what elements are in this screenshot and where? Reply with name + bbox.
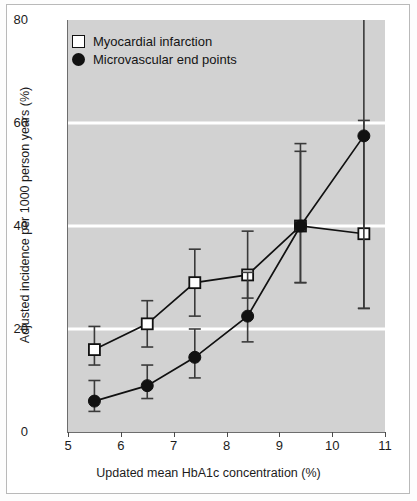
data-point-marker-filled-circle: [294, 220, 306, 232]
x-tick-8: [227, 432, 228, 437]
data-point-marker-open-square: [142, 318, 153, 329]
series-line: [94, 136, 363, 401]
series-microvascular-end-points: [88, 20, 369, 411]
x-tick-label-10: 10: [312, 439, 352, 452]
x-tick-label-7: 7: [154, 439, 194, 452]
y-axis-title: Adjusted incidence per 1000 person years…: [18, 50, 32, 380]
data-point-marker-filled-circle: [141, 380, 153, 392]
data-point-marker-open-square: [89, 344, 100, 355]
legend-item-myocardial-infarction: Myocardial infarction: [72, 33, 237, 50]
plot-svg: [68, 20, 385, 432]
x-tick-label-8: 8: [207, 439, 247, 452]
legend-label-microvascular-end-points: Microvascular end points: [93, 53, 237, 66]
filled-circle-marker-icon: [72, 53, 85, 66]
legend-item-microvascular-end-points: Microvascular end points: [72, 51, 237, 68]
x-tick-11: [385, 432, 386, 437]
chart-legend: Myocardial infarction Microvascular end …: [72, 33, 237, 69]
x-tick-label-6: 6: [101, 439, 141, 452]
x-tick-10: [332, 432, 333, 437]
open-square-marker-icon: [72, 35, 85, 48]
legend-label-myocardial-infarction: Myocardial infarction: [93, 35, 212, 48]
x-tick-label-5: 5: [48, 439, 88, 452]
figure-chart-hba1c-incidence: 020406080 567891011 Adjusted incidence p…: [0, 0, 417, 501]
x-tick-label-9: 9: [259, 439, 299, 452]
y-tick-label-80: 80: [14, 13, 28, 26]
y-tick-label-0: 0: [21, 425, 28, 438]
data-point-marker-filled-circle: [242, 310, 254, 322]
x-tick-6: [121, 432, 122, 437]
x-tick-5: [68, 432, 69, 437]
x-axis-title: Updated mean HbA1c concentration (%): [0, 466, 417, 480]
x-tick-label-11: 11: [365, 439, 405, 452]
data-point-marker-open-square: [189, 277, 200, 288]
data-point-marker-filled-circle: [88, 395, 100, 407]
x-tick-7: [174, 432, 175, 437]
x-tick-9: [279, 432, 280, 437]
plot-area: [68, 20, 385, 432]
y-axis-line: [67, 20, 68, 433]
data-point-marker-filled-circle: [189, 351, 201, 363]
data-point-marker-filled-circle: [358, 130, 370, 142]
